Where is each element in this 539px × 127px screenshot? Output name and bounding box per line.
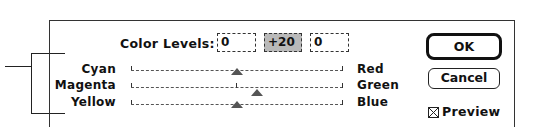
label-yellow: Yellow xyxy=(71,95,116,109)
label-green: Green xyxy=(357,78,399,92)
callout-stub xyxy=(5,66,31,67)
level-field-magenta-green[interactable]: +20 xyxy=(264,33,302,52)
slider-end-tick xyxy=(342,83,343,88)
callout-bracket-vertical xyxy=(31,53,32,114)
slider-yellow-blue[interactable] xyxy=(131,100,343,114)
slider-magenta-green[interactable] xyxy=(131,83,343,97)
label-cyan: Cyan xyxy=(82,62,116,76)
label-blue: Blue xyxy=(357,95,388,109)
level-field-yellow-blue[interactable]: 0 xyxy=(310,33,349,52)
color-levels-label: Color Levels: xyxy=(120,36,215,51)
slider-track xyxy=(131,87,343,89)
level-field-cyan-red[interactable]: 0 xyxy=(217,33,256,52)
slider-end-tick xyxy=(342,100,343,105)
slider-cyan-red[interactable] xyxy=(131,66,343,80)
label-red: Red xyxy=(357,62,384,76)
slider-thumb[interactable] xyxy=(231,68,243,75)
preview-label: Preview xyxy=(442,105,500,119)
slider-center-tick xyxy=(236,83,237,88)
slider-end-tick xyxy=(342,66,343,71)
cancel-button[interactable]: Cancel xyxy=(428,68,500,89)
label-magenta: Magenta xyxy=(55,78,116,92)
slider-thumb[interactable] xyxy=(231,101,243,108)
slider-thumb[interactable] xyxy=(251,89,263,96)
checkbox-checked-icon[interactable] xyxy=(428,107,439,118)
ok-button[interactable]: OK xyxy=(426,33,502,60)
